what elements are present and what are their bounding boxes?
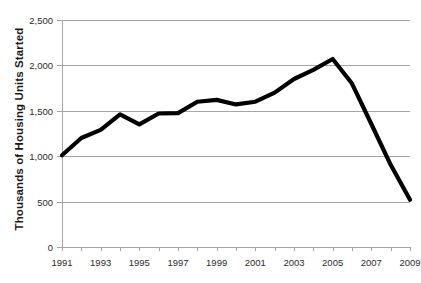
x-tick-mark [333, 247, 334, 251]
x-tick-label: 2009 [399, 257, 420, 268]
x-tick-mark [255, 247, 256, 251]
y-tick-label: 1,000 [29, 151, 53, 162]
x-axis-line: 1991199319951997199920012003200520072009 [62, 247, 410, 248]
x-tick-label: 2003 [283, 257, 304, 268]
x-tick-mark [81, 247, 82, 251]
x-tick-mark [275, 247, 276, 251]
series-polyline [62, 59, 410, 200]
y-tick-label: 1,500 [29, 105, 53, 116]
plot-area: 05001,0001,5002,0002,500 199119931995199… [62, 20, 410, 247]
y-tick-label: 500 [37, 196, 53, 207]
x-tick-mark [178, 247, 179, 251]
x-tick-mark [313, 247, 314, 251]
x-tick-mark [139, 247, 140, 251]
x-tick-mark [236, 247, 237, 251]
x-tick-mark [294, 247, 295, 251]
x-tick-mark [197, 247, 198, 251]
data-series-line [62, 20, 410, 247]
x-tick-label: 1997 [167, 257, 188, 268]
x-tick-mark [159, 247, 160, 251]
x-tick-mark [371, 247, 372, 251]
y-tick-label: 0 [48, 242, 53, 253]
x-tick-mark [120, 247, 121, 251]
x-tick-label: 1995 [129, 257, 150, 268]
x-tick-label: 2005 [322, 257, 343, 268]
y-tick-label: 2,000 [29, 60, 53, 71]
x-tick-label: 2007 [361, 257, 382, 268]
x-tick-mark [217, 247, 218, 251]
x-tick-mark [391, 247, 392, 251]
x-tick-label: 1999 [206, 257, 227, 268]
x-tick-mark [352, 247, 353, 251]
y-axis-title: Thousands of Housing Units Started [13, 14, 25, 244]
x-tick-mark [101, 247, 102, 251]
y-tick-label: 2,500 [29, 15, 53, 26]
x-tick-label: 2001 [245, 257, 266, 268]
x-tick-label: 1991 [51, 257, 72, 268]
x-tick-label: 1993 [90, 257, 111, 268]
x-tick-mark [62, 247, 63, 251]
x-tick-mark [410, 247, 411, 251]
